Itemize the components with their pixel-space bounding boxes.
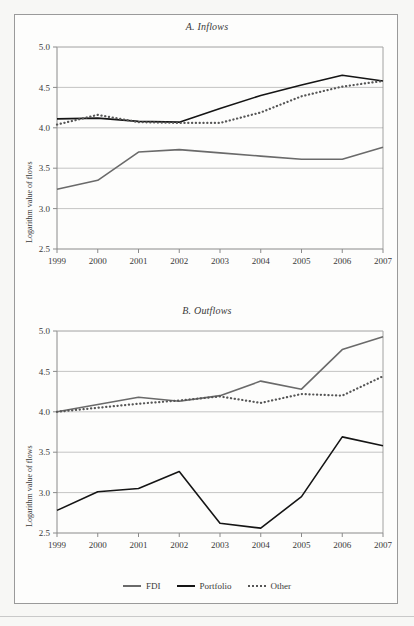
- panel-b-plot: 2.53.03.54.04.55.01999200020012002200320…: [15, 321, 399, 571]
- y-tick-label: 3.0: [39, 488, 51, 498]
- panel-b-title: B. Outflows: [15, 305, 399, 316]
- x-tick-label: 2004: [252, 540, 271, 550]
- x-tick-label: 2003: [211, 540, 230, 550]
- x-tick-label: 2006: [333, 540, 352, 550]
- x-tick-label: 2002: [170, 540, 188, 550]
- x-tick-label: 2002: [170, 256, 188, 266]
- y-tick-label: 4.5: [39, 83, 51, 93]
- y-tick-label: 4.0: [39, 407, 51, 417]
- panel-a-plot: 2.53.03.54.04.55.01999200020012002200320…: [15, 37, 399, 287]
- series-line-portfolio: [57, 437, 383, 528]
- legend-label-portfolio: Portfolio: [200, 581, 232, 591]
- y-tick-label: 3.5: [39, 447, 51, 457]
- x-tick-label: 2003: [211, 256, 230, 266]
- x-tick-label: 2007: [374, 540, 393, 550]
- legend-item-fdi: FDI: [123, 581, 161, 591]
- panel-a-svg: 2.53.03.54.04.55.01999200020012002200320…: [15, 37, 399, 287]
- x-tick-label: 2001: [130, 256, 148, 266]
- legend-swatch-fdi-icon: [123, 585, 141, 587]
- legend-item-portfolio: Portfolio: [177, 581, 232, 591]
- y-tick-label: 2.5: [39, 528, 51, 538]
- x-tick-label: 2005: [293, 540, 312, 550]
- x-tick-label: 2005: [293, 256, 312, 266]
- legend-item-other: Other: [248, 581, 292, 591]
- series-line-other: [57, 376, 383, 412]
- y-tick-label: 4.0: [39, 123, 51, 133]
- x-tick-label: 2000: [89, 256, 108, 266]
- series-line-portfolio: [57, 75, 383, 122]
- x-tick-label: 2001: [130, 540, 148, 550]
- panel-outflows: B. Outflows Logarithm value of flows 2.5…: [15, 305, 399, 583]
- x-tick-label: 2000: [89, 540, 108, 550]
- y-tick-label: 4.5: [39, 367, 51, 377]
- chart-legend: FDI Portfolio Other: [15, 581, 399, 591]
- y-tick-label: 3.5: [39, 163, 51, 173]
- x-tick-label: 2007: [374, 256, 393, 266]
- y-tick-label: 3.0: [39, 204, 51, 214]
- y-tick-label: 2.5: [39, 244, 51, 254]
- x-tick-label: 2004: [252, 256, 271, 266]
- panel-a-title: A. Inflows: [15, 21, 399, 32]
- legend-label-other: Other: [271, 581, 292, 591]
- legend-swatch-other-icon: [248, 585, 266, 587]
- figure-frame: A. Inflows Logarithm value of flows 2.53…: [14, 14, 398, 604]
- series-line-fdi: [57, 337, 383, 412]
- legend-label-fdi: FDI: [146, 581, 161, 591]
- x-tick-label: 2006: [333, 256, 352, 266]
- panel-inflows: A. Inflows Logarithm value of flows 2.53…: [15, 21, 399, 299]
- x-tick-label: 1999: [48, 256, 67, 266]
- legend-swatch-portfolio-icon: [177, 585, 195, 587]
- x-tick-label: 1999: [48, 540, 67, 550]
- figure-root: A. Inflows Logarithm value of flows 2.53…: [0, 0, 414, 626]
- page-bottom-rule: [0, 616, 414, 617]
- y-tick-label: 5.0: [39, 326, 51, 336]
- panel-b-svg: 2.53.03.54.04.55.01999200020012002200320…: [15, 321, 399, 571]
- y-tick-label: 5.0: [39, 42, 51, 52]
